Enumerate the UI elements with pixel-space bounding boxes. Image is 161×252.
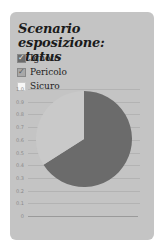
y-tick-label: 1.0 (4, 86, 24, 92)
y-tick-label: 0.6 (4, 137, 24, 143)
legend-item-pericolo[interactable]: ✓ Pericolo (17, 66, 67, 78)
y-tick-label: 0.7 (4, 124, 24, 130)
legend-label: Ignoto (30, 53, 60, 63)
y-tick-label: 0.4 (4, 162, 24, 168)
y-tick-label: 0.9 (4, 99, 24, 105)
x-axis-baseline (28, 216, 138, 217)
checkbox-checked-icon[interactable]: ✓ (17, 68, 26, 77)
legend: ✓ Ignoto ✓ Pericolo Sicuro (17, 52, 67, 94)
y-tick-label: 0.5 (4, 150, 24, 156)
y-tick-label: 0.3 (4, 175, 24, 181)
chart-card: Scenario esposizione: status ✓ Ignoto ✓ … (10, 12, 154, 240)
gridline (28, 191, 140, 192)
y-tick-label: 0.1 (4, 200, 24, 206)
legend-item-ignoto[interactable]: ✓ Ignoto (17, 52, 67, 64)
y-tick-label: 0 (4, 213, 24, 219)
pie-chart (34, 89, 134, 189)
y-tick-label: 0.2 (4, 188, 24, 194)
legend-label: Pericolo (30, 67, 67, 77)
gridline (28, 203, 140, 204)
y-tick-label: 0.8 (4, 111, 24, 117)
checkbox-checked-icon[interactable]: ✓ (17, 54, 26, 63)
